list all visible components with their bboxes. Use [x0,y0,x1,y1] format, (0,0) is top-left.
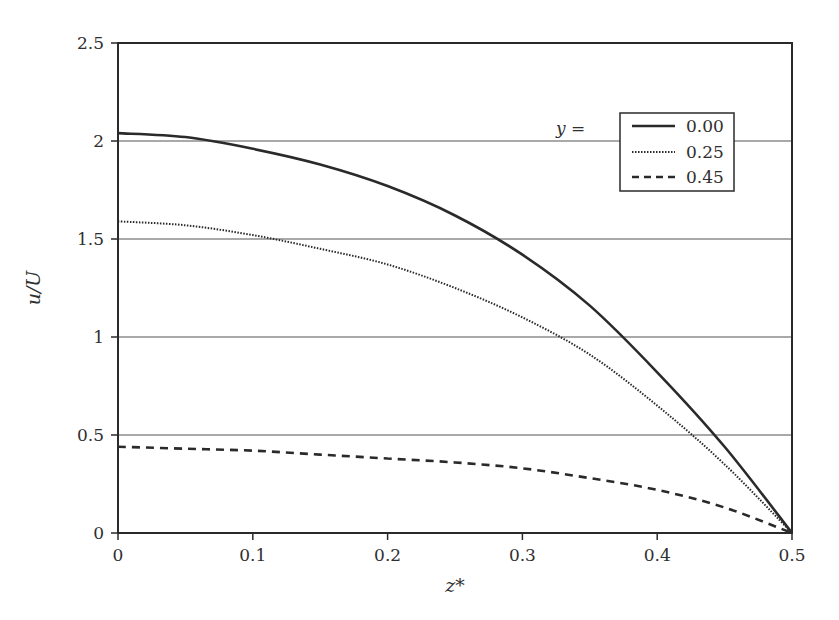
y-tick-label: 1 [93,327,104,347]
x-tick-label: 0.2 [374,545,401,565]
x-tick-label: 0.3 [509,545,536,565]
legend-label-0: 0.00 [686,116,724,136]
chart: 00.10.20.30.40.5 00.511.522.5 z* u/U y =… [0,0,839,620]
series-line-solid [118,133,792,533]
x-axis: 00.10.20.30.40.5 [113,533,806,565]
y-tick-label: 0 [93,523,104,543]
series-line-dashed [118,447,792,533]
y-tick-label: 2.5 [77,33,104,53]
x-axis-title: z* [444,574,465,596]
legend-title: y = [555,118,585,138]
y-tick-label: 0.5 [77,425,104,445]
x-tick-label: 0.4 [644,545,671,565]
series-lines [118,133,792,533]
legend-label-1: 0.25 [686,142,724,162]
y-tick-label: 1.5 [77,229,104,249]
x-tick-label: 0 [113,545,124,565]
y-axis-title: u/U [22,270,44,306]
y-tick-label: 2 [93,131,104,151]
legend: y = 0.00 0.25 0.45 [555,113,734,191]
series-line-dotted [118,221,792,533]
x-tick-label: 0.1 [239,545,266,565]
y-axis: 00.511.522.5 [77,33,118,543]
x-tick-label: 0.5 [778,545,805,565]
legend-label-2: 0.45 [686,167,724,187]
